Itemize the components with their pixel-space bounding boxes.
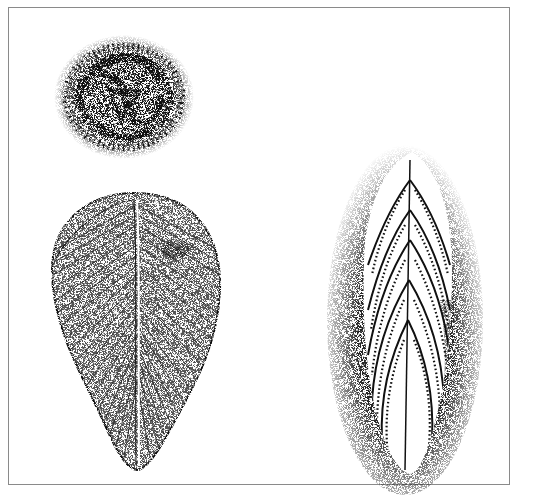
frond-specimen	[327, 145, 483, 495]
coiled-disc-specimen	[54, 35, 194, 159]
fossil-illustration	[0, 0, 543, 502]
caption	[0, 490, 543, 502]
oval-specimen	[45, 185, 230, 480]
